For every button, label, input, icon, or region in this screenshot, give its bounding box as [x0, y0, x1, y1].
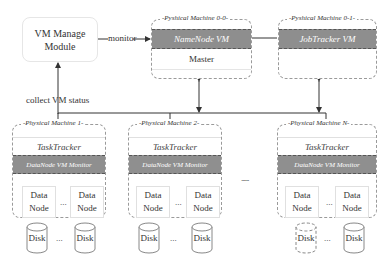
disk-icon: Disk	[26, 222, 48, 254]
disk-icon-dashed: Disk	[295, 222, 317, 254]
physical-machine-0-1: -Pyshical Machine 0-1- JobTracker VM	[278, 19, 377, 79]
collect-vm-status-label: collect VM status	[26, 95, 89, 105]
vm-manage-module-line2: Module	[35, 40, 86, 53]
monitor-label: monitor	[108, 33, 137, 43]
ellipsis: ...	[56, 233, 63, 243]
ellipsis: ...	[60, 197, 67, 207]
disk-icon: Disk	[191, 222, 213, 254]
more-machines-ellipsis: ......	[241, 173, 249, 183]
tasktracker: TaskTracker	[278, 137, 376, 156]
ellipsis: ...	[326, 197, 333, 207]
ellipsis: ...	[175, 197, 182, 207]
ellipsis: ...	[170, 233, 177, 243]
machine-title: -Physical Machine 1-	[21, 119, 85, 127]
disk-icon: Disk	[138, 222, 160, 254]
machine-title: -Pyshical Machine 0-1-	[287, 14, 357, 22]
disk-icon: Disk	[74, 222, 96, 254]
namenode-vm: NameNode VM	[152, 29, 251, 49]
data-node: DataNode	[70, 186, 104, 218]
datanode-vm-monitor: DataNode VM Monitor	[13, 155, 105, 174]
data-node: DataNode	[136, 186, 170, 218]
physical-machine-0-0: -Pyshical Machine 0-0- NameNode VM Maste…	[151, 19, 252, 79]
disk-icon: Disk	[343, 222, 365, 254]
data-node: DataNode	[22, 186, 56, 218]
master-label: Master	[152, 49, 251, 70]
tasktracker: TaskTracker	[129, 137, 221, 156]
data-node: DataNode	[285, 186, 319, 218]
physical-machine-n: -Physical Machine N- TaskTracker DataNod…	[277, 124, 377, 218]
data-node: DataNode	[186, 186, 220, 218]
data-node: DataNode	[335, 186, 369, 218]
machine-title: -Physical Machine N-	[286, 119, 351, 127]
physical-machine-1: -Physical Machine 1- TaskTracker DataNod…	[12, 124, 106, 218]
datanode-vm-monitor: DataNode VM Monitor	[278, 155, 376, 174]
vm-manage-module: VM Manage Module	[22, 17, 98, 62]
physical-machine-2: -Physical Machine 2- TaskTracker DataNod…	[128, 124, 222, 218]
ellipsis: ...	[324, 233, 331, 243]
vm-manage-module-line1: VM Manage	[35, 27, 86, 40]
datanode-vm-monitor: DataNode VM Monitor	[129, 155, 221, 174]
tasktracker: TaskTracker	[13, 137, 105, 156]
jobtracker-vm: JobTracker VM	[279, 29, 376, 49]
machine-title: -Physical Machine 2-	[137, 119, 201, 127]
machine-title: -Pyshical Machine 0-0-	[160, 14, 230, 22]
